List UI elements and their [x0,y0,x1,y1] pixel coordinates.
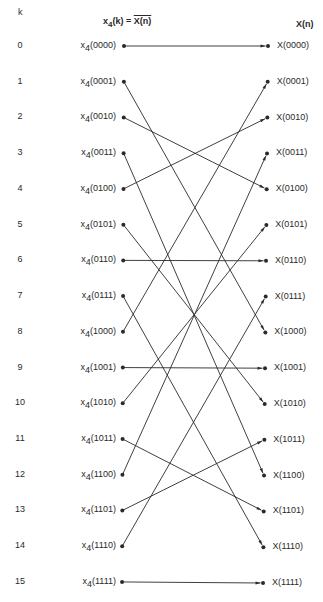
output-node-dot [266,80,270,84]
output-node-dot [264,223,268,227]
output-node-dot [264,259,268,263]
input-node-dot [121,366,125,370]
output-node-dot [262,438,266,442]
output-node-dot [266,44,270,48]
input-node-dot [122,80,126,84]
output-node-dot [265,151,269,155]
mapping-arrow [123,368,263,369]
input-node-dot [121,330,125,334]
input-node-dot [121,294,125,298]
input-node-dot [121,223,125,227]
mapping-arrow [122,299,264,546]
mapping-arrow [124,117,265,188]
output-node-dot [264,295,268,299]
input-node-dot [120,580,124,584]
output-node-dot [262,474,266,478]
input-node-dot [121,401,125,405]
mapping-arrow [122,582,261,583]
mapping-arrows [122,46,266,583]
input-node-dot [121,187,125,191]
input-node-dot [120,473,124,477]
input-node-dot [122,151,126,155]
mapping-arrow [123,225,263,402]
output-node-dot [263,366,267,370]
mapping-arrow [123,119,265,189]
bit-reversal-diagram [0,0,323,602]
output-node-dot [263,402,267,406]
output-node-dot [265,116,269,120]
output-node-dot [263,330,267,334]
output-node-dot [262,509,266,513]
input-node-dot [121,258,125,262]
input-node-dot [122,44,126,48]
input-node-dot [122,115,126,119]
output-node-dot [265,187,269,191]
mapping-arrow [122,156,266,475]
input-node-dot [120,508,124,512]
input-node-dot [121,437,125,441]
output-node-dot [261,545,265,549]
input-node-dot [120,544,124,548]
mapping-arrow [123,84,266,332]
output-node-dot [261,581,265,585]
